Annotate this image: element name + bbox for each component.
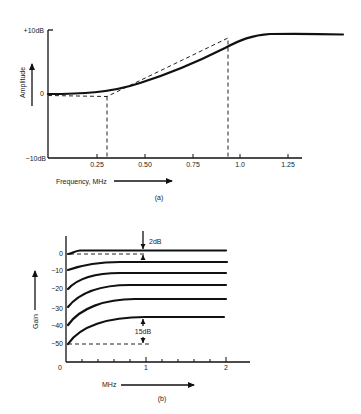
chart-b-y-tick-label: −40 [51, 322, 63, 329]
chart-b-y-tick-label: −30 [51, 305, 63, 312]
chart-a-x-tick-label: 0.25 [90, 161, 104, 168]
chart-a-x-tick-label: 1.25 [281, 161, 295, 168]
chart-b-x-title: MHz [102, 381, 117, 388]
chart-a-x-title: Frequency, MHz [56, 178, 107, 186]
chart-a-x-tick-label: 0.75 [186, 161, 200, 168]
chart-b-x-ticks [82, 357, 226, 362]
chart-b-x-tick-label: 0 [58, 364, 62, 371]
chart-b-y-tick-label: −10 [51, 267, 63, 274]
chart-b-curve-2 [68, 262, 227, 270]
chart-b-x-tick-label: 2 [224, 364, 228, 371]
chart-a-y-top-label: +10dB [24, 27, 45, 34]
chart-b: 0 −10 −20 −30 −40 −50 0 1 2 2dB 15dB Gai… [32, 231, 250, 403]
chart-b-y-title: Gain [32, 314, 39, 329]
chart-a-x-tick-label: 1.0 [235, 161, 245, 168]
chart-a-caption: (a) [155, 194, 164, 202]
chart-b-curve-4 [68, 285, 226, 307]
chart-b-y-tick-label: 0 [59, 250, 63, 257]
chart-b-y-tick-label: −20 [51, 285, 63, 292]
chart-b-curve-5 [68, 299, 226, 325]
chart-a-y-title: Amplitude [19, 67, 27, 98]
chart-b-curve-3 [68, 273, 226, 289]
chart-b-caption: (b) [158, 395, 167, 403]
chart-b-x-tick-label: 1 [144, 364, 148, 371]
chart-b-2db-label: 2dB [149, 238, 162, 245]
chart-a-y-bottom-label: −10dB [26, 155, 47, 162]
chart-b-y-tick-label: −50 [51, 340, 63, 347]
chart-a-response-curve [48, 34, 343, 94]
chart-b-15db-label: 15dB [135, 328, 152, 335]
chart-a-x-tick-label: 0.50 [138, 161, 152, 168]
chart-b-curve-1 [68, 251, 226, 255]
chart-a-y-zero-label: 0 [40, 90, 44, 97]
figure: +10dB 0 −10dB 0.25 0.50 0.75 1.0 1.25 Am… [0, 0, 361, 414]
chart-a: +10dB 0 −10dB 0.25 0.50 0.75 1.0 1.25 Am… [19, 27, 343, 202]
chart-a-ideal-response [48, 38, 228, 158]
